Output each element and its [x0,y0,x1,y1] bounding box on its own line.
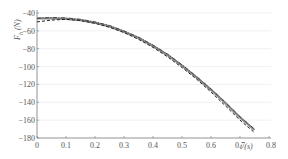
x-tick-label: 0.5 [177,141,187,150]
y-tick-label: −180 [18,134,35,143]
grid-lines [37,13,271,120]
y-axis-label-unit: (N) [13,19,22,30]
x-tick-label: 0.4 [148,141,158,150]
y-axis-label-sub: h [18,32,24,35]
x-tick-label: 0.2 [90,141,100,150]
axes [37,10,271,138]
y-tick-label: −140 [18,98,35,107]
x-tick-label: 0.1 [61,141,71,150]
series-dashed [37,19,255,132]
y-tick-label: −100 [18,63,35,72]
series-dash-dot [37,18,255,130]
data-series [37,18,255,133]
x-axis-label: t (s) [240,142,253,151]
x-tick-label: 0.3 [119,141,129,150]
line-chart: −40−60−80−100−120−140−160−180 00.10.20.3… [0,0,288,159]
y-tick-label: −120 [18,80,35,89]
y-tick-label: −160 [18,116,35,125]
y-tick-label: −80 [22,45,35,54]
x-tick-label: 0 [35,141,39,150]
x-tick-label: 0.8 [266,141,276,150]
y-tick-label: −40 [22,9,35,18]
x-tick-label: 0.6 [206,141,216,150]
series-solid [37,18,255,130]
y-tick-label: −60 [22,27,35,36]
